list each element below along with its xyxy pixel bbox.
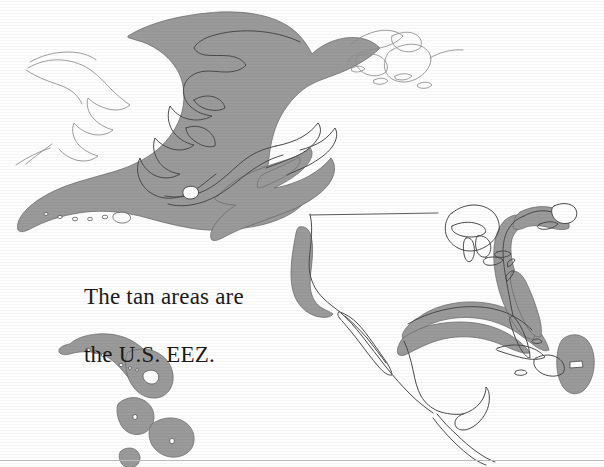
map-figure: The tan areas are the U.S. EEZ. [0,0,604,467]
pacific-island-eez-3 [119,448,140,467]
map-caption: The tan areas are the U.S. EEZ. [84,253,314,398]
caption-line-2: the U.S. EEZ. [84,340,314,369]
bottom-rule [0,460,604,461]
puerto-rico-island [570,361,583,368]
caption-line-1: The tan areas are [84,282,314,311]
kodiak-island [183,186,199,199]
